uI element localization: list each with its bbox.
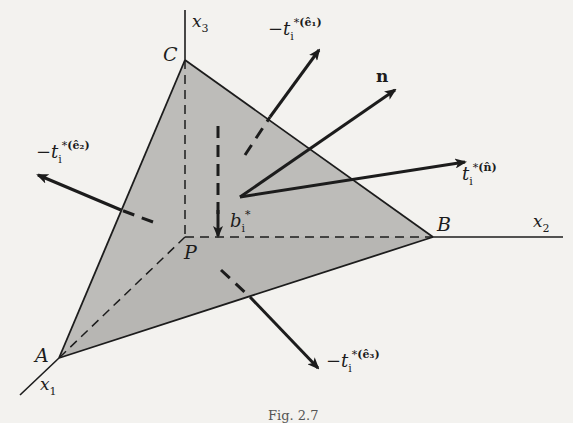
x3-axis-label: x3 xyxy=(192,13,209,30)
traction-e1-arrow xyxy=(270,50,319,117)
point-p-label: P xyxy=(184,243,197,262)
traction-e2-arrow xyxy=(38,175,121,210)
x1-axis-label: x1 xyxy=(40,376,57,393)
traction-n-label: ti*(n̂) xyxy=(462,165,497,183)
body-force-label: bi* xyxy=(230,212,251,230)
traction-e3-arrow xyxy=(250,297,318,368)
x2-axis-label: x2 xyxy=(533,213,550,230)
traction-e3-label: −ti*(ê₃) xyxy=(326,352,380,370)
point-a-label: A xyxy=(35,346,49,365)
normal-vector-label: n xyxy=(376,68,388,85)
traction-e2-label: −ti*(ê₂) xyxy=(36,143,90,161)
figure-caption: Fig. 2.7 xyxy=(268,408,318,423)
traction-e1-label: −ti*(ê₁) xyxy=(268,20,322,38)
point-b-label: B xyxy=(437,215,451,234)
point-c-label: C xyxy=(163,45,178,64)
